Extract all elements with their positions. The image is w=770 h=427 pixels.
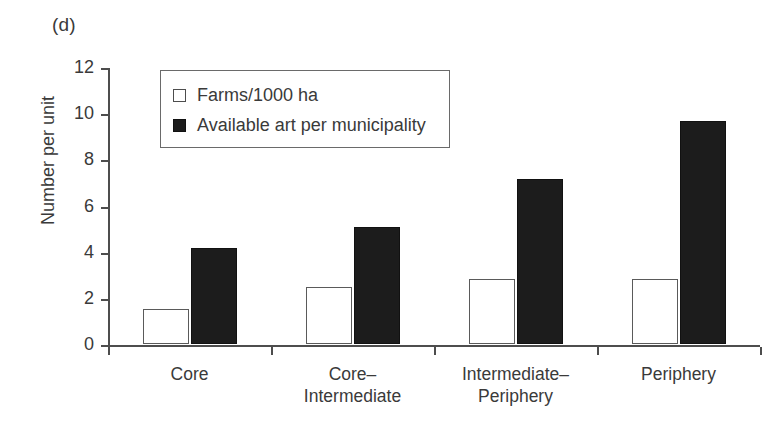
filled-square-icon	[173, 119, 186, 132]
bar-farms	[469, 279, 515, 344]
x-tick-mark	[434, 347, 436, 355]
x-category-label: Periphery	[597, 364, 760, 386]
y-tick-mark	[101, 207, 108, 209]
y-tick-label: 12	[56, 57, 94, 78]
y-tick-label: 0	[56, 334, 94, 355]
legend-entry-available-art: Available art per municipality	[173, 110, 449, 140]
bar-available-art	[680, 121, 726, 344]
bar-available-art	[517, 179, 563, 344]
y-tick-mark	[101, 160, 108, 162]
legend-entry-farms: Farms/1000 ha	[173, 80, 449, 110]
y-tick-label: 10	[56, 103, 94, 124]
x-tick-mark	[597, 347, 599, 355]
y-tick-mark	[101, 299, 108, 301]
y-tick-mark	[101, 345, 108, 347]
x-category-label: Intermediate– Periphery	[434, 364, 597, 408]
x-tick-mark	[760, 347, 762, 355]
x-tick-mark	[271, 347, 273, 355]
y-tick-mark	[101, 114, 108, 116]
y-tick-mark	[101, 253, 108, 255]
legend-label-farms: Farms/1000 ha	[197, 85, 318, 106]
bar-available-art	[354, 227, 400, 344]
legend-label-available-art: Available art per municipality	[197, 115, 426, 136]
x-tick-mark	[108, 347, 110, 355]
y-tick-label: 2	[56, 288, 94, 309]
y-tick-label: 8	[56, 149, 94, 170]
y-tick-mark	[101, 68, 108, 70]
open-square-icon	[173, 89, 186, 102]
legend-box: Farms/1000 ha Available art per municipa…	[160, 70, 450, 148]
bar-farms	[143, 309, 189, 344]
bar-farms	[306, 287, 352, 344]
y-tick-label: 6	[56, 196, 94, 217]
y-tick-label: 4	[56, 242, 94, 263]
bar-available-art	[191, 248, 237, 344]
bar-farms	[632, 279, 678, 344]
x-category-label: Core– Intermediate	[271, 364, 434, 408]
x-category-label: Core	[108, 364, 271, 386]
panel-label: (d)	[52, 14, 76, 36]
figure-panel-d: (d) Number per unit 024681012 CoreCore– …	[0, 0, 770, 427]
y-axis-line	[108, 68, 110, 347]
